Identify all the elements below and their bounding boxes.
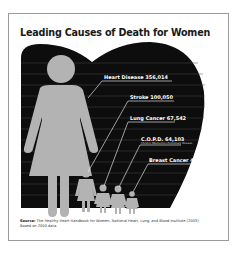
label-lung-cancer: Lung Cancer 67,542 bbox=[130, 115, 187, 122]
label-breast-cancer: Breast Cancer 41,514 bbox=[149, 157, 210, 163]
label-stroke: Stroke 100,050 bbox=[130, 94, 174, 100]
source-citation: Source: The Healthy Heart Handbook for W… bbox=[20, 219, 220, 229]
heart-pictograph-chart: Heart Disease 356,014 Stroke 100,050 Lun… bbox=[0, 0, 238, 253]
label-heart-disease: Heart Disease 356,014 bbox=[104, 74, 169, 80]
source-text: The Healthy Heart Handbook for Women, Na… bbox=[37, 219, 199, 223]
source-note: Based on 2000 data. bbox=[20, 224, 57, 228]
label-copd-subtitle: Chronic Obstructive Pulmonary Disease bbox=[141, 142, 193, 145]
source-label: Source: bbox=[20, 219, 35, 223]
